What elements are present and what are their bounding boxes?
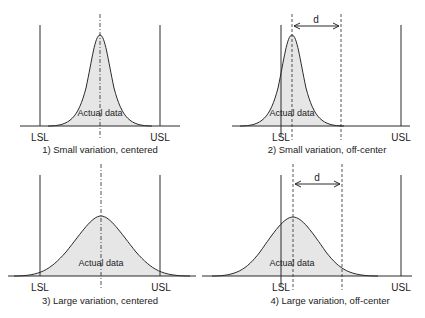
lsl-label: LSL <box>31 282 49 293</box>
lsl-label: LSL <box>272 132 290 143</box>
panel-1: Actual data LSL USL 1) Small variation, … <box>20 14 180 155</box>
panel-caption: 4) Large variation, off-center <box>270 295 389 306</box>
panel-4: d Actual data LSL USL 4) Large variation… <box>212 164 412 306</box>
curve-label: Actual data <box>269 258 314 268</box>
usl-label: USL <box>391 282 411 293</box>
usl-label: USL <box>151 282 171 293</box>
panel-caption: 2) Small variation, off-center <box>268 144 387 155</box>
capability-diagram: Actual data LSL USL 1) Small variation, … <box>0 0 425 318</box>
panel-caption: 3) Large variation, centered <box>42 295 158 306</box>
curve-label: Actual data <box>269 108 314 118</box>
usl-label: USL <box>391 132 411 143</box>
panel-caption: 1) Small variation, centered <box>42 144 158 155</box>
offset-label: d <box>314 172 320 183</box>
offset-label: d <box>313 14 319 25</box>
curve-label: Actual data <box>77 108 122 118</box>
lsl-label: LSL <box>272 282 290 293</box>
curve-label: Actual data <box>78 258 123 268</box>
panel-2: d Actual data LSL USL 2) Small variation… <box>232 14 411 155</box>
lsl-label: LSL <box>31 132 49 143</box>
usl-label: USL <box>150 132 170 143</box>
panel-3: Actual data LSL USL 3) Large variation, … <box>8 164 212 306</box>
